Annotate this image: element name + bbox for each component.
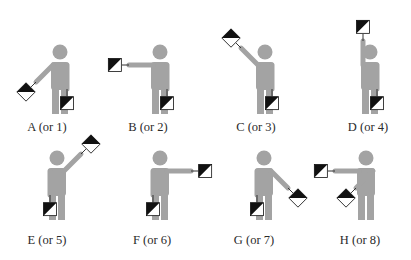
label-d: D (or 4) (348, 121, 388, 134)
flag-staff (288, 188, 293, 193)
flag-icon (147, 203, 160, 216)
head-icon (257, 151, 272, 166)
head-icon (359, 151, 374, 166)
left-leg (362, 88, 369, 114)
flag-icon (314, 165, 327, 178)
semaphore-figure-c (222, 29, 279, 114)
semaphore-figure-g (251, 151, 308, 221)
flag-staff (31, 82, 36, 87)
flag-staff (236, 43, 241, 48)
semaphore-figure-e (44, 135, 101, 220)
semaphore-figure-a (17, 45, 74, 115)
label-a: A (or 1) (27, 121, 67, 134)
left-arm (36, 65, 53, 82)
flag-staff (351, 188, 356, 193)
semaphore-figure-d (357, 20, 384, 114)
flag-icon (266, 97, 279, 110)
head-icon (50, 151, 65, 166)
semaphore-figure-h (314, 151, 375, 221)
label-e: E (or 5) (28, 234, 67, 247)
left-leg (358, 194, 365, 220)
right-leg (265, 194, 272, 220)
left-leg (257, 88, 264, 114)
label-h: H (or 8) (340, 234, 380, 247)
flag-icon (371, 97, 384, 110)
head-icon (153, 151, 168, 166)
label-g: G (or 7) (234, 234, 274, 247)
flag-icon (44, 203, 57, 216)
right-leg (161, 194, 168, 220)
left-leg (152, 88, 159, 114)
head-icon (258, 45, 273, 60)
right-leg (367, 194, 374, 220)
label-b: B (or 2) (128, 121, 168, 134)
head-icon (153, 45, 168, 60)
left-arm (241, 48, 258, 65)
label-f: F (or 6) (133, 234, 171, 247)
semaphore-diagram: A (or 1) B (or 2) C (or 3) D (or 4) E (o… (0, 0, 411, 260)
flag-staff (81, 149, 86, 154)
flag-icon (199, 165, 212, 178)
flag-icon (251, 203, 264, 216)
flag-icon (108, 59, 121, 72)
left-leg (52, 88, 59, 114)
flag-icon (161, 97, 174, 110)
semaphore-figure-f (147, 151, 212, 221)
flag-icon (61, 97, 74, 110)
label-c: C (or 3) (236, 121, 276, 134)
head-icon (53, 45, 68, 60)
right-arm (271, 171, 288, 188)
right-arm (64, 154, 81, 171)
semaphore-figure-b (108, 45, 173, 115)
flag-icon (357, 20, 370, 33)
right-leg (58, 194, 65, 220)
